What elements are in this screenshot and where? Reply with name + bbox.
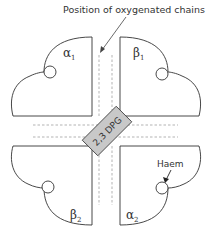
haem-group-alpha2 [156, 182, 168, 194]
subunit-beta2: β2 [11, 146, 92, 225]
haem-group-beta1 [156, 68, 168, 80]
haemoglobin-diagram: Position of oxygenated chains α1 β1 β2 α… [0, 0, 207, 231]
subunit-beta1: β1 [120, 37, 201, 116]
haem-label: Haem [157, 159, 184, 169]
haem-group-beta2 [42, 181, 54, 193]
subunit-alpha2: α2 [120, 146, 201, 225]
haem-group-alpha1 [44, 66, 56, 78]
title-label: Position of oxygenated chains [63, 4, 205, 15]
subunit-alpha1: α1 [11, 37, 92, 116]
